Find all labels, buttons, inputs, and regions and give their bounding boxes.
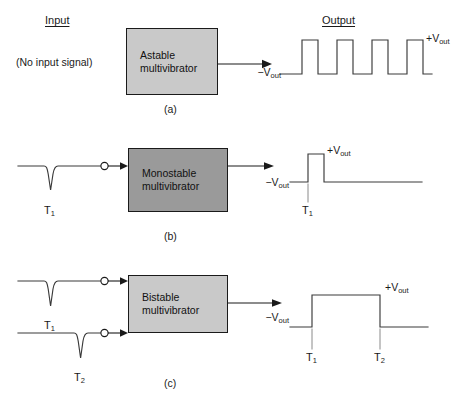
bistable-input-label-t2: T2 (74, 371, 85, 383)
monostable-high-voltage-label: +Vout (327, 144, 351, 156)
multivibrator-figure: Input Output (No input signal) Astable m… (0, 0, 463, 402)
caption-a: (a) (164, 103, 177, 115)
monostable-block-label: Monostable multivibrator (142, 167, 199, 193)
bistable-input-connector-2 (100, 325, 130, 345)
monostable-input-connector (100, 158, 130, 178)
monostable-block: Monostable multivibrator (128, 148, 228, 212)
monostable-output-connector (228, 158, 280, 178)
caption-c: (c) (164, 377, 176, 389)
bistable-low-voltage-label: −Vout (265, 311, 289, 323)
bistable-block: Bistable multivibrator (128, 275, 228, 333)
monostable-low-voltage-label: −Vout (265, 176, 289, 188)
section-bistable: T1 T2 Bistable multivibrator (0, 255, 463, 402)
caption-b: (b) (164, 230, 177, 242)
monostable-input-label-t1: T1 (44, 204, 55, 216)
bistable-output-marker-t2: T2 (374, 351, 385, 363)
astable-block-label: Astable multivibrator (140, 49, 197, 75)
monostable-output-waveform (290, 144, 440, 204)
astable-high-voltage-label: +Vout (426, 32, 450, 44)
astable-output-waveform (280, 28, 450, 88)
bistable-output-waveform (290, 281, 445, 351)
bistable-output-marker-t1: T1 (306, 351, 317, 363)
astable-input-note: (No input signal) (16, 56, 92, 68)
monostable-output-marker-t1: T1 (302, 204, 313, 216)
bistable-block-label: Bistable multivibrator (142, 291, 199, 317)
bistable-input-connector-1 (100, 273, 130, 293)
section-astable: (No input signal) Astable multivibrator … (0, 0, 463, 130)
astable-block: Astable multivibrator (126, 28, 218, 95)
section-monostable: T1 Monostable multivibrator −Vout +Vout … (0, 130, 463, 255)
bistable-high-voltage-label: +Vout (385, 281, 409, 293)
astable-low-voltage-label: −Vout (257, 66, 281, 78)
